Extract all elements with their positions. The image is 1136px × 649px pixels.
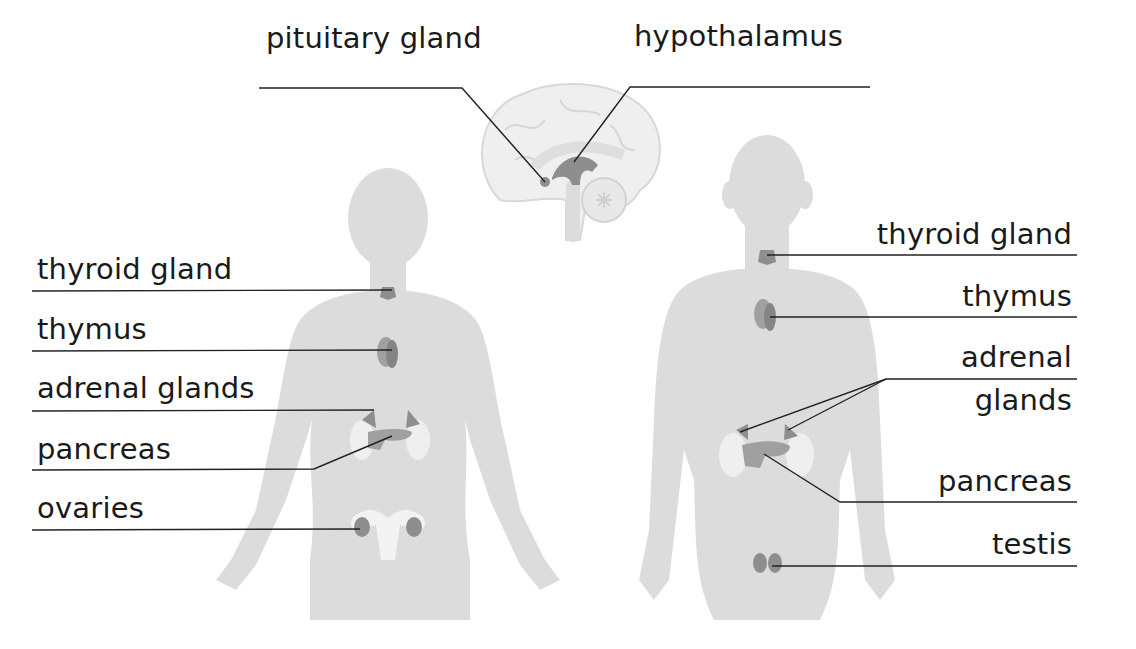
label-male-thymus: thymus — [962, 282, 1072, 311]
label-male-pancreas: pancreas — [938, 467, 1072, 496]
label-male-thyroid-gland: thyroid gland — [877, 220, 1072, 249]
label-male-testis: testis — [992, 530, 1072, 559]
label-female-thymus: thymus — [37, 315, 147, 344]
female-body-illustration — [216, 168, 560, 620]
leader-female-thyroid — [32, 290, 392, 291]
label-hypothalamus: hypothalamus — [634, 22, 843, 51]
brain-illustration — [482, 84, 660, 242]
label-female-pancreas: pancreas — [37, 435, 171, 464]
endocrine-system-diagram: pituitary gland hypothalamus thyroid gla… — [0, 0, 1136, 649]
label-male-glands: glands — [975, 386, 1072, 415]
male-body-illustration — [639, 135, 895, 620]
leader-female-ovaries — [32, 529, 360, 530]
label-female-ovaries: ovaries — [37, 494, 144, 523]
diagram-graphics — [0, 0, 1136, 649]
leader-female-thymus — [32, 350, 392, 351]
label-pituitary-gland: pituitary gland — [266, 24, 482, 53]
label-male-adrenal: adrenal — [961, 343, 1072, 372]
label-female-adrenal-glands: adrenal glands — [37, 374, 255, 403]
label-female-thyroid-gland: thyroid gland — [37, 255, 232, 284]
leader-female-adrenal — [32, 410, 374, 411]
